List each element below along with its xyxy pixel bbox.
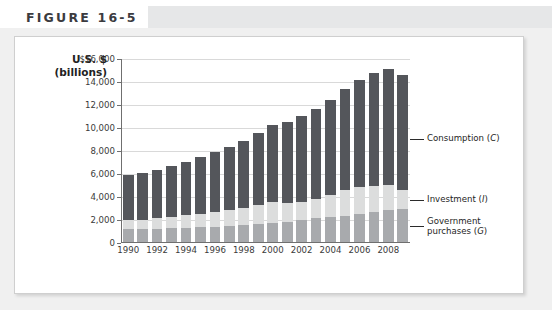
bar-segment-c-2004 xyxy=(325,100,336,195)
gridline xyxy=(121,197,410,198)
bar-1998 xyxy=(238,59,249,243)
callout-consumption: Consumption (C) xyxy=(427,133,499,144)
bar-segment-c-1995 xyxy=(195,157,206,214)
bar-2006 xyxy=(354,59,365,243)
x-axis-label-2000: 2000 xyxy=(262,245,284,255)
bar-segment-i-1995 xyxy=(195,214,206,227)
y-axis-label: 2,000 xyxy=(90,215,115,225)
y-axis-tick xyxy=(117,220,121,221)
gridline xyxy=(121,128,410,129)
bar-segment-c-1992 xyxy=(152,170,163,218)
y-axis-label: 4,000 xyxy=(90,192,115,202)
bar-segment-i-1994 xyxy=(181,215,192,228)
leader-line-consumption xyxy=(410,139,424,140)
bar-segment-g-2001 xyxy=(282,222,293,243)
x-axis-label-2008: 2008 xyxy=(377,245,399,255)
bar-segment-g-2004 xyxy=(325,217,336,243)
bar-2005 xyxy=(340,59,351,243)
bar-2007 xyxy=(369,59,380,243)
bar-2004 xyxy=(325,59,336,243)
y-axis-label: 10,000 xyxy=(85,123,115,133)
bar-segment-c-1997 xyxy=(224,147,235,210)
bar-segment-g-1990 xyxy=(123,229,134,243)
bar-segment-c-2006 xyxy=(354,80,365,187)
bar-1995 xyxy=(195,59,206,243)
y-axis-tick xyxy=(117,151,121,152)
x-axis-label-1996: 1996 xyxy=(204,245,226,255)
callout-investment: Investment (I) xyxy=(427,194,488,205)
bar-segment-i-2008 xyxy=(383,185,394,210)
bar-2001 xyxy=(282,59,293,243)
bar-segment-c-2001 xyxy=(282,122,293,203)
bar-segment-i-2004 xyxy=(325,195,336,217)
bar-segment-g-2009 xyxy=(397,209,408,243)
bar-segment-g-1998 xyxy=(238,225,249,243)
x-axis-label-1994: 1994 xyxy=(175,245,197,255)
bar-1993 xyxy=(166,59,177,243)
y-axis-label: 8,000 xyxy=(90,146,115,156)
bar-segment-i-1991 xyxy=(137,220,148,230)
y-axis-label: 0 xyxy=(110,238,115,248)
y-axis-line xyxy=(121,59,122,243)
bar-segment-i-1996 xyxy=(210,212,221,227)
bar-segment-i-1990 xyxy=(123,220,134,230)
bar-2002 xyxy=(296,59,307,243)
bar-segment-g-1996 xyxy=(210,227,221,243)
bar-2009 xyxy=(397,59,408,243)
x-axis-label-2006: 2006 xyxy=(348,245,370,255)
gridline xyxy=(121,82,410,83)
bar-segment-i-1998 xyxy=(238,208,249,225)
gridline xyxy=(121,59,410,60)
bar-segment-i-1992 xyxy=(152,218,163,228)
figure-root: FIGURE 16-5 U.S. $ (billions) $16,00014,… xyxy=(0,0,552,310)
figure-header-band: FIGURE 16-5 xyxy=(0,6,552,28)
bar-segment-g-1993 xyxy=(166,228,177,243)
leader-line-investment xyxy=(410,200,424,201)
bar-segment-g-1994 xyxy=(181,228,192,243)
bar-segment-i-1999 xyxy=(253,205,264,224)
bar-segment-g-2007 xyxy=(369,212,380,243)
y-axis-tick xyxy=(117,128,121,129)
bar-segment-g-1999 xyxy=(253,224,264,243)
bar-1990 xyxy=(123,59,134,243)
gridline xyxy=(121,220,410,221)
figure-title: FIGURE 16-5 xyxy=(26,10,138,25)
y-axis-tick xyxy=(117,197,121,198)
bar-2000 xyxy=(267,59,278,243)
bar-segment-g-1997 xyxy=(224,226,235,243)
y-axis-tick xyxy=(117,105,121,106)
bar-segment-g-1991 xyxy=(137,229,148,243)
gridline xyxy=(121,151,410,152)
chart-area: U.S. $ (billions) $16,00014,00012,00010,… xyxy=(15,37,525,295)
bar-1994 xyxy=(181,59,192,243)
bar-1996 xyxy=(210,59,221,243)
bar-segment-c-2000 xyxy=(267,125,278,203)
bar-segment-c-2007 xyxy=(369,73,380,186)
bar-segment-i-2007 xyxy=(369,186,380,212)
bar-segment-g-2006 xyxy=(354,214,365,243)
bar-segment-i-2002 xyxy=(296,202,307,220)
bar-segment-c-1993 xyxy=(166,166,177,217)
bar-segment-g-2000 xyxy=(267,223,278,243)
bar-segment-i-2001 xyxy=(282,203,293,221)
figure-card: U.S. $ (billions) $16,00014,00012,00010,… xyxy=(14,36,524,294)
y-axis-label: $16,000 xyxy=(79,54,115,64)
bar-1997 xyxy=(224,59,235,243)
y-axis-label: 6,000 xyxy=(90,169,115,179)
bar-segment-c-2002 xyxy=(296,116,307,202)
bar-segment-i-2009 xyxy=(397,190,408,209)
bar-2008 xyxy=(383,59,394,243)
bar-segment-i-2006 xyxy=(354,187,365,214)
bar-1999 xyxy=(253,59,264,243)
x-axis-label-1998: 1998 xyxy=(233,245,255,255)
x-axis-label-2002: 2002 xyxy=(291,245,313,255)
bar-segment-g-1995 xyxy=(195,227,206,243)
bar-segment-c-2009 xyxy=(397,75,408,190)
bar-segment-i-2005 xyxy=(340,190,351,216)
bar-2003 xyxy=(311,59,322,243)
bar-segment-g-2008 xyxy=(383,210,394,243)
bar-segment-g-1992 xyxy=(152,229,163,243)
bar-segment-c-1990 xyxy=(123,175,134,220)
bar-segment-i-1993 xyxy=(166,217,177,229)
bar-1991 xyxy=(137,59,148,243)
